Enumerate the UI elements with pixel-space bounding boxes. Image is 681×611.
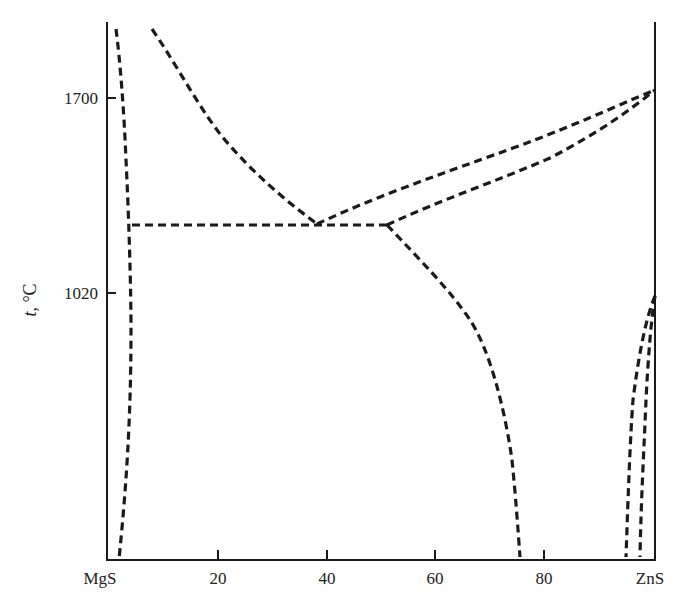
liquidus-zns-side-curve — [317, 90, 655, 224]
x-tick-label-60: 60 — [427, 569, 444, 588]
mgs-solvus-curve — [116, 29, 131, 559]
x-tick-label-zns: ZnS — [636, 569, 664, 588]
liquidus-mgs-side-curve — [152, 29, 317, 224]
y-tick-label-1700: 1700 — [64, 89, 98, 108]
zns-solvus-curve — [387, 225, 520, 557]
x-tick-label-mgs: MgS — [83, 569, 116, 588]
x-tick-label-20: 20 — [210, 569, 227, 588]
y-axis-label: t, °C — [20, 283, 40, 316]
x-tick-label-40: 40 — [319, 569, 336, 588]
x-tick-label-80: 80 — [536, 569, 553, 588]
y-axis-label-unit: , °C — [20, 283, 40, 311]
solidus-zns-side-curve — [387, 90, 655, 225]
phase-diagram: 1700 1020 t, °C MgS 20 40 60 80 ZnS — [0, 0, 681, 611]
y-tick-label-1020: 1020 — [64, 284, 98, 303]
